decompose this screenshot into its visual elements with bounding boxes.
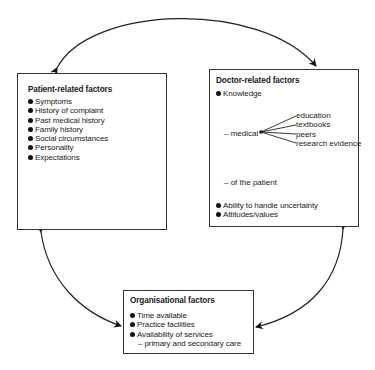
bullet-icon — [28, 118, 33, 123]
list-item: Attitudes/values — [216, 210, 318, 219]
bullet-icon — [130, 313, 135, 318]
list-item: Personality — [28, 143, 108, 152]
org-factor-list: Time available Practice facilities Avail… — [130, 311, 241, 348]
bullet-icon — [28, 155, 33, 160]
bullet-icon — [216, 91, 221, 96]
bullet-icon — [130, 332, 135, 337]
org-box-title: Organisational factors — [130, 296, 215, 305]
doctor-related-factors-box: Doctor-related factors Knowledge – medic… — [209, 69, 359, 227]
bullet-icon — [28, 108, 33, 113]
doctor-factor-list: Ability to handle uncertainty Attitudes/… — [216, 201, 318, 220]
patient-related-factors-box: Patient-related factors Symptoms History… — [17, 73, 167, 230]
list-item: textbooks — [296, 120, 361, 129]
knowledge-item: Knowledge — [216, 89, 262, 98]
list-item: Ability to handle uncertainty — [216, 201, 318, 210]
bullet-icon — [28, 127, 33, 132]
list-item: Expectations — [28, 153, 108, 162]
list-item: peers — [296, 130, 361, 139]
list-item: Family history — [28, 125, 108, 134]
list-item: Social circumstances — [28, 134, 108, 143]
branch-lines — [258, 112, 298, 148]
medical-knowledge-label: – medical — [224, 129, 258, 138]
list-item: Practice facilities — [130, 320, 241, 329]
arrow-patient-doctor — [57, 19, 316, 68]
medical-sources-list: education textbooks peers research evide… — [296, 111, 361, 148]
patient-knowledge-label: – of the patient — [224, 178, 277, 187]
list-item: History of complaint — [28, 106, 108, 115]
arrow-patient-organisational — [41, 232, 121, 326]
patient-box-title: Patient-related factors — [28, 85, 112, 94]
patient-factor-list: Symptoms History of complaint Past medic… — [28, 97, 108, 162]
arrow-doctor-organisational — [256, 229, 343, 327]
list-item: Availability of services — [130, 330, 241, 339]
list-item: research evidence — [296, 139, 361, 148]
organisational-factors-box: Organisational factors Time available Pr… — [123, 290, 254, 354]
sub-item: – primary and secondary care — [130, 339, 241, 348]
bullet-icon — [216, 203, 221, 208]
bullet-icon — [28, 136, 33, 141]
list-item: education — [296, 111, 361, 120]
bullet-icon — [216, 212, 221, 217]
bullet-icon — [28, 145, 33, 150]
list-item: Past medical history — [28, 116, 108, 125]
doctor-box-title: Doctor-related factors — [216, 76, 299, 85]
bullet-icon — [130, 322, 135, 327]
list-item: Time available — [130, 311, 241, 320]
list-item: Symptoms — [28, 97, 108, 106]
bullet-icon — [28, 99, 33, 104]
